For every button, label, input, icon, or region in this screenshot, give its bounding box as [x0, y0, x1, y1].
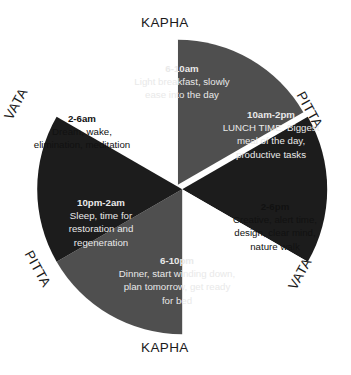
slice-time-6-10pm: 6-10pm — [118, 254, 236, 267]
slice-time-10am-2pm: 10am-2pm — [216, 108, 326, 121]
slice-desc-2-6am: Dream, wake, elimination, meditation — [30, 125, 134, 151]
ring-label-kapha-top: KAPHA — [141, 16, 189, 30]
slice-time-10pm-2am: 10pm-2am — [48, 196, 154, 209]
ring-label-kapha-bottom: KAPHA — [141, 341, 189, 355]
slice-time-2-6am: 2-6am — [30, 112, 134, 125]
slice-label-2-6am: 2-6am Dream, wake, elimination, meditati… — [30, 112, 134, 152]
slice-desc-10am-2pm: LUNCH TIME. Biggest meal of the day, pro… — [216, 121, 326, 161]
slice-label-6-10am: 6-10am Light breakfast, slowly ease into… — [128, 62, 236, 102]
pie-wheel — [0, 0, 351, 375]
slice-label-10pm-2am: 10pm-2am Sleep, time for restoration and… — [48, 196, 154, 249]
slice-desc-10pm-2am: Sleep, time for restoration and regenera… — [48, 209, 154, 249]
slice-time-6-10am: 6-10am — [128, 62, 236, 75]
slice-time-2-6pm: 2-6pm — [228, 200, 322, 213]
slice-label-10am-2pm: 10am-2pm LUNCH TIME. Biggest meal of the… — [216, 108, 326, 161]
ayurvedic-cycle-diagram: KAPHA KAPHA VATA PITTA PITTA VATA 6-10am… — [0, 0, 351, 375]
slice-label-6-10pm: 6-10pm Dinner, start winding down, plan … — [118, 254, 236, 307]
slice-label-2-6pm: 2-6pm Creative, alert time, design, clea… — [228, 200, 322, 253]
slice-desc-6-10am: Light breakfast, slowly ease into the da… — [128, 75, 236, 101]
slice-desc-6-10pm: Dinner, start winding down, plan tomorro… — [118, 267, 236, 307]
slice-desc-2-6pm: Creative, alert time, design, clear mind… — [228, 213, 322, 253]
